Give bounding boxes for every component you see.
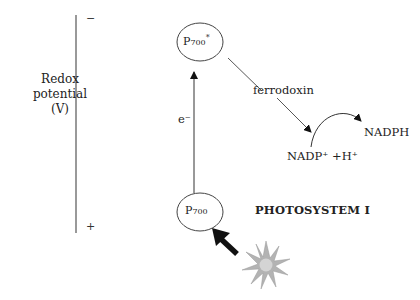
ferrodoxin-to-nadp-arrow bbox=[277, 98, 311, 132]
p700-ground-label: P700 bbox=[185, 204, 208, 217]
axis-positive-sign: + bbox=[86, 220, 95, 233]
axis-label-line1: Redox bbox=[30, 72, 90, 87]
p700-excited-sub: 700 bbox=[190, 38, 205, 47]
ferrodoxin-label: ferrodoxin bbox=[253, 83, 314, 97]
nadp-reactant-label: NADP⁺ +H⁺ bbox=[287, 149, 358, 163]
p700-excited-sup: * bbox=[206, 33, 210, 42]
electron-label: e⁻ bbox=[178, 112, 191, 126]
nadp-to-nadph-curved-arrow bbox=[311, 113, 361, 147]
redox-potential-label: Redox potential (V) bbox=[30, 72, 90, 117]
sunlight-star-icon bbox=[242, 241, 290, 289]
p700-ground-sub: 700 bbox=[192, 207, 207, 216]
light-absorption-arrow-icon bbox=[212, 228, 237, 254]
axis-label-line2: potential bbox=[30, 87, 90, 102]
axis-negative-sign: − bbox=[86, 12, 95, 25]
nadph-label: NADPH bbox=[364, 125, 409, 139]
axis-label-line3: (V) bbox=[30, 102, 90, 117]
p700-excited-label: P700* bbox=[183, 33, 210, 48]
photosystem-title: PHOTOSYSTEM I bbox=[255, 203, 370, 217]
